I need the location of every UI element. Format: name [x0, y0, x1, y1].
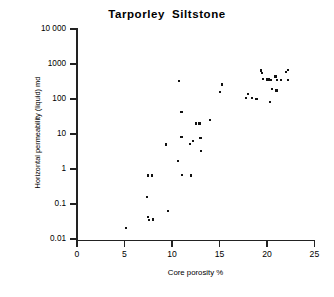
data-point	[195, 122, 197, 124]
data-point	[190, 174, 192, 176]
data-point	[271, 88, 273, 90]
x-tick-mark	[124, 241, 125, 247]
scatter-plot-area	[77, 29, 314, 240]
data-point	[199, 137, 201, 139]
data-point	[151, 174, 153, 176]
x-tick-mark	[76, 241, 77, 247]
data-point	[192, 140, 194, 142]
data-point	[167, 210, 169, 212]
data-point	[181, 174, 183, 176]
data-point	[189, 143, 191, 145]
data-point	[269, 101, 271, 103]
x-tick-mark	[171, 241, 172, 247]
y-tick-mark	[70, 28, 76, 29]
x-tick-label: 25	[299, 249, 329, 259]
x-tick-label: 20	[252, 249, 282, 259]
data-point	[274, 75, 276, 77]
data-point	[276, 79, 278, 81]
x-tick-mark	[266, 241, 267, 247]
x-tick-label: 0	[62, 249, 92, 259]
data-point	[177, 160, 179, 162]
data-point	[148, 219, 150, 221]
data-point	[180, 111, 182, 113]
data-point	[261, 72, 263, 74]
x-tick-mark	[314, 241, 315, 247]
data-point	[280, 79, 282, 81]
y-axis-label-holder: Horizontal permeability (liquid) md	[22, 30, 34, 210]
data-point	[287, 79, 289, 81]
x-tick-mark	[219, 241, 220, 247]
data-point	[165, 143, 167, 145]
data-point	[152, 218, 154, 220]
data-point	[198, 122, 200, 124]
x-tick-label: 15	[204, 249, 234, 259]
data-point	[209, 119, 211, 121]
data-point	[221, 83, 223, 85]
data-point	[200, 150, 202, 152]
data-point	[251, 97, 253, 99]
y-tick-mark	[70, 168, 76, 169]
y-tick-mark	[70, 98, 76, 99]
x-tick-label: 10	[157, 249, 187, 259]
y-tick-mark	[70, 133, 76, 134]
data-point	[270, 79, 272, 81]
x-axis-label: Core porosity %	[77, 268, 314, 277]
data-point	[245, 97, 247, 99]
data-point	[285, 71, 287, 73]
data-point	[262, 78, 264, 80]
y-tick-mark	[70, 63, 76, 64]
data-point	[255, 98, 257, 100]
y-tick-mark	[70, 238, 76, 239]
data-point	[247, 93, 249, 95]
data-point	[146, 196, 148, 198]
x-tick-label: 5	[109, 249, 139, 259]
data-point	[178, 80, 180, 82]
chart-figure: Tarporley Siltstone 10 00010001001010.10…	[0, 0, 334, 297]
data-point	[147, 216, 149, 218]
y-tick-mark	[70, 203, 76, 204]
data-point	[287, 69, 289, 71]
data-point	[125, 227, 127, 229]
data-point	[180, 136, 182, 138]
data-point	[275, 89, 277, 91]
y-tick-label-wrap: 0.01	[22, 234, 66, 244]
y-tick-label: 0.01	[22, 234, 66, 243]
y-axis-label: Horizontal permeability (liquid) md	[33, 48, 42, 218]
data-point	[219, 91, 221, 93]
chart-title: Tarporley Siltstone	[0, 8, 334, 20]
data-point	[147, 174, 149, 176]
